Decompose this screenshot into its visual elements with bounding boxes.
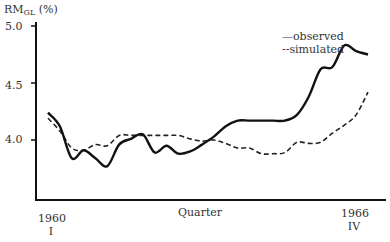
y-axis-label: RMGL (%) xyxy=(4,3,58,17)
y-tick-label-4-0: 4.0 xyxy=(5,133,23,146)
x-start-label: 1960 I xyxy=(38,212,64,238)
legend-simulated: --simulated xyxy=(282,43,344,56)
x-axis-label: Quarter xyxy=(178,206,222,219)
legend-observed: —observed xyxy=(282,30,344,43)
simulated-line xyxy=(48,92,368,154)
x-end-year: 1966 xyxy=(341,207,367,220)
observed-line xyxy=(48,45,368,167)
x-start-year: 1960 xyxy=(38,212,64,225)
x-end-quarter: IV xyxy=(341,220,367,233)
y-tick-label-4-5: 4.5 xyxy=(5,79,23,92)
legend: —observed --simulated xyxy=(282,30,344,56)
x-start-quarter: I xyxy=(38,225,64,238)
x-end-label: 1966 IV xyxy=(341,207,367,233)
y-tick-label-5-0: 5.0 xyxy=(5,20,23,33)
